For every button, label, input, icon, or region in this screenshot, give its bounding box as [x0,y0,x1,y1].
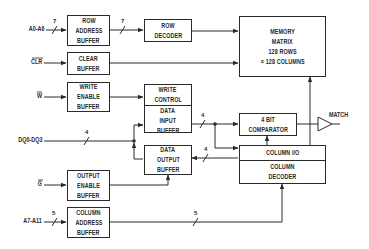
write-control-data-input-block: WRITE CONTROL DATA INPUT BUFFER [144,84,192,133]
data-input-buffer-section: DATA INPUT BUFFER [145,106,191,136]
data-output-buffer-block: DATA OUTPUT BUFFER [144,145,192,175]
output-enable-buffer-block: OUTPUT ENABLE BUFFER [67,170,110,201]
signal-dq0-dq3: DQ0-DQ3 [18,136,42,143]
signal-clr: CLR [31,58,42,65]
comparator-block: 4 BIT COMPARATOR [239,113,297,136]
write-enable-buffer-block: WRITE ENABLE BUFFER [67,82,110,112]
bus-width-dq: 4 [85,129,88,135]
bus-width-data-in: 4 [201,112,204,118]
column-address-buffer-block: COLUMN ADDRESS BUFFER [67,207,110,238]
signal-w: W [37,92,42,99]
column-decoder-section: COLUMN DECODER [240,161,325,183]
row-decoder-block: ROW DECODER [144,19,192,42]
bus-width-data-out: 4 [204,146,207,152]
bus-width-column: 5 [194,210,197,216]
memory-block-diagram: A0-A6 CLR W DQ0-DQ3 G A7-A11 MATCH 7 7 4… [0,0,369,249]
bus-width-a7-a11: 5 [52,210,55,216]
bus-width-a0-a6: 7 [53,18,56,24]
bus-width-row: 7 [121,18,124,24]
write-control-section: WRITE CONTROL [145,85,191,106]
column-io-section: COLUMN I/O [240,146,325,161]
row-address-buffer-block: ROW ADDRESS BUFFER [67,15,110,46]
signal-match: MATCH [329,111,348,118]
memory-matrix-block: MEMORY MATRIX 128 ROWS × 128 COLUMNS [239,16,326,77]
signal-a0-a6: A0-A6 [28,25,44,32]
match-buffer-icon [318,117,332,131]
signal-a7-a11: A7-A11 [24,217,42,224]
clear-buffer-block: CLEAR BUFFER [67,52,110,75]
column-io-decoder-block: COLUMN I/O COLUMN DECODER [239,145,326,184]
signal-g: G [38,180,42,187]
